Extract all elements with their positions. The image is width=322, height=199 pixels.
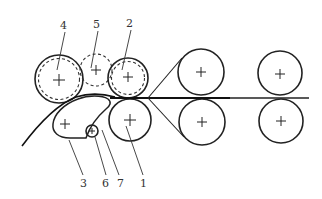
label-1: 1 xyxy=(140,177,147,190)
labels: 4 5 2 3 6 7 1 xyxy=(60,17,147,190)
roll-5 xyxy=(80,54,112,86)
roll-diagram: 4 5 2 3 6 7 1 xyxy=(0,0,322,199)
right-top-roll-2 xyxy=(258,51,302,95)
right-top-roll-1 xyxy=(178,49,224,95)
label-6: 6 xyxy=(102,177,109,190)
label-5: 5 xyxy=(93,18,100,31)
label-7: 7 xyxy=(117,177,124,190)
roll-2 xyxy=(108,58,148,98)
label-2: 2 xyxy=(126,17,133,30)
roll-1 xyxy=(109,99,151,141)
right-bottom-roll-1 xyxy=(179,99,225,145)
label-4: 4 xyxy=(60,19,67,32)
right-bottom-roll-2 xyxy=(259,99,303,143)
label-3: 3 xyxy=(80,177,87,190)
roll-6 xyxy=(86,125,98,137)
